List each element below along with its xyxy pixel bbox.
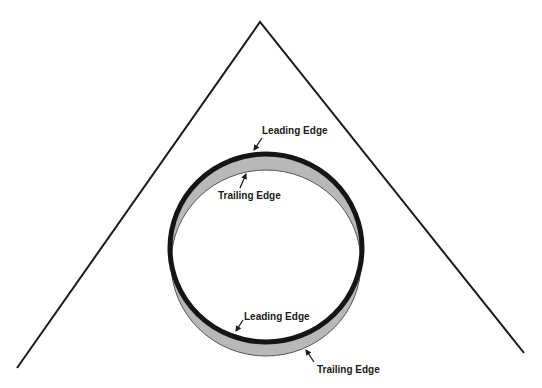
leading-edge-bottom-label: Leading Edge xyxy=(244,311,310,322)
label-trailing-edge-bottom: Trailing Edge xyxy=(306,350,380,375)
trailing-edge-top-label: Trailing Edge xyxy=(218,190,281,201)
label-leading-edge-bottom: Leading Edge xyxy=(236,311,310,331)
leading-edge-top-label: Leading Edge xyxy=(262,125,328,136)
arrow-icon xyxy=(306,350,314,362)
cone-ring-diagram: Leading Edge Trailing Edge Leading Edge … xyxy=(0,0,542,388)
label-leading-edge-top: Leading Edge xyxy=(254,125,328,150)
arrow-icon xyxy=(240,174,246,188)
arrow-icon xyxy=(236,320,243,331)
trailing-edge-bottom-label: Trailing Edge xyxy=(317,364,380,375)
arrow-icon xyxy=(254,138,262,150)
ring xyxy=(170,154,362,356)
